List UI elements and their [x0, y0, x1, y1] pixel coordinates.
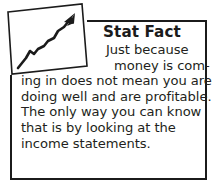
body-line: The only way you can know — [21, 104, 201, 120]
body-line: ing in does not mean you are — [21, 73, 201, 89]
callout-text-block: Stat Fact Just because money is com- ing… — [21, 24, 201, 151]
callout-heading: Stat Fact — [21, 24, 201, 41]
body-line: doing well and are profitable. — [21, 89, 201, 105]
callout-border-top — [87, 20, 207, 22]
callout-border-left — [10, 75, 12, 180]
callout-body: Just because money is com- ing in does n… — [21, 42, 201, 151]
callout-border-bottom — [10, 178, 207, 180]
body-line: Just because — [21, 42, 201, 58]
body-line: money is com- — [21, 58, 201, 74]
body-line: that is by looking at the — [21, 120, 201, 136]
body-line: income statements. — [21, 136, 201, 152]
stat-fact-callout: Stat Fact Just because money is com- ing… — [0, 0, 215, 185]
